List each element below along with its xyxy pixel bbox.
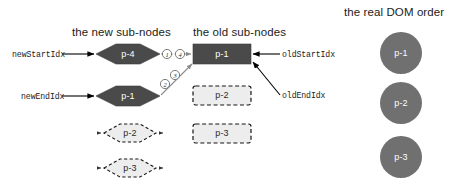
old-node-p-2-label: p-2 (202, 90, 242, 100)
step-marker-2-label: 2 (160, 81, 170, 88)
old-node-p-1-label: p-1 (202, 49, 242, 59)
diagram-canvas: the new sub-nodes the old sub-nodes the … (0, 0, 450, 186)
dom-node-p-2-label: p-2 (381, 98, 421, 108)
label-old-end-idx: oldEndIdx (282, 91, 325, 100)
new-node-p-1-label: p-1 (108, 91, 148, 101)
step-marker-1-label: 1 (162, 51, 172, 58)
step-marker-3-label: 3 (170, 72, 180, 79)
new-node-p-4-label: p-4 (108, 49, 148, 59)
new-node-p-2-label: p-2 (110, 128, 150, 138)
arrow-old-end-idx (253, 62, 280, 95)
dom-node-p-1-label: p-1 (381, 48, 421, 58)
dom-node-p-3-label: p-3 (381, 152, 421, 162)
header-real-dom-order: the real DOM order (344, 6, 444, 18)
header-old-sub-nodes: the old sub-nodes (193, 26, 286, 38)
step-marker-4-label: 4 (175, 51, 185, 58)
new-node-p-3-label: p-3 (110, 163, 150, 173)
label-new-start-idx: newStartIdx (12, 50, 65, 59)
label-new-end-idx: newEndIdx (21, 92, 64, 101)
header-new-sub-nodes: the new sub-nodes (72, 26, 171, 38)
label-old-start-idx: oldStartIdx (282, 50, 335, 59)
old-node-p-3-label: p-3 (202, 128, 242, 138)
